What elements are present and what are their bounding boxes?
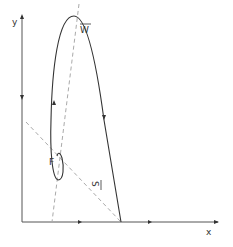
- axes: [20, 14, 219, 224]
- y-axis-arrow-icon: [20, 14, 24, 19]
- f-label: F: [49, 157, 54, 167]
- trajectory-curve: [51, 16, 121, 222]
- curve-arrow-icon: [102, 115, 106, 120]
- phase-diagram: y x W F S: [0, 0, 233, 247]
- s-bar-label: S: [90, 181, 100, 187]
- y-axis-mid-arrow-icon: [20, 95, 24, 100]
- x-axis-arrow-icon: [214, 220, 219, 224]
- x-axis-left-arrow-icon: [78, 220, 82, 224]
- x-axis-label: x: [206, 227, 212, 237]
- w-bar-nullcline: [52, 4, 79, 222]
- curve-arrow-icon: [52, 100, 56, 105]
- x-axis-mid-arrow-icon: [148, 220, 152, 224]
- w-bar-label: W: [80, 25, 89, 35]
- y-axis-label: y: [12, 17, 18, 27]
